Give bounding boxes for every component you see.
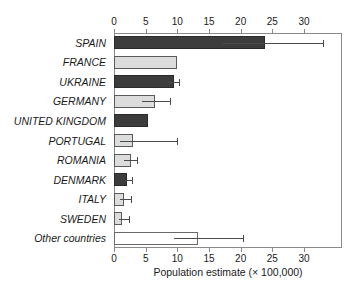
x-tick-label-top-10: 10 [162, 16, 192, 27]
category-label-united-kingdom: UNITED KINGDOM [14, 115, 106, 127]
x-tick-label-top-20: 20 [226, 16, 256, 27]
x-tick-label-bottom-15: 15 [194, 253, 224, 264]
x-tick-top-15 [209, 29, 210, 33]
error-bar-italy [120, 199, 131, 200]
x-tick-label-bottom-10: 10 [162, 253, 192, 264]
x-tick-top-5 [146, 29, 147, 33]
x-tick-top-20 [241, 29, 242, 33]
error-cap [323, 40, 324, 47]
x-tick-bottom-30 [304, 248, 305, 252]
category-label-germany: GERMANY [53, 95, 106, 107]
x-tick-label-bottom-0: 0 [99, 253, 129, 264]
x-tick-label-top-25: 25 [257, 16, 287, 27]
x-tick-label-bottom-25: 25 [257, 253, 287, 264]
error-cap [137, 157, 138, 164]
x-tick-label-top-5: 5 [131, 16, 161, 27]
x-tick-top-25 [272, 29, 273, 33]
x-tick-label-bottom-20: 20 [226, 253, 256, 264]
category-label-denmark: DENMARK [53, 174, 106, 186]
bar-chart: 005510101515202025253030 SPAINFRANCEUKRA… [0, 0, 358, 289]
error-cap [243, 235, 244, 242]
error-cap [179, 79, 180, 86]
error-cap [132, 177, 133, 184]
error-bar-other-countries [174, 238, 242, 239]
category-label-italy: ITALY [79, 193, 106, 205]
category-label-portugal: PORTUGAL [48, 135, 106, 147]
x-tick-label-top-30: 30 [289, 16, 319, 27]
x-tick-label-bottom-5: 5 [131, 253, 161, 264]
category-label-romania: ROMANIA [57, 154, 106, 166]
x-tick-bottom-5 [146, 248, 147, 252]
error-cap [170, 98, 171, 105]
x-tick-bottom-15 [209, 248, 210, 252]
bar-france [114, 56, 177, 69]
category-label-spain: SPAIN [75, 37, 106, 49]
error-cap [177, 138, 178, 145]
x-tick-bottom-25 [272, 248, 273, 252]
top-axis-line [114, 33, 342, 34]
category-label-france: FRANCE [63, 56, 106, 68]
bar-ukraine [114, 75, 174, 88]
error-bar-denmark [125, 180, 133, 181]
x-tick-bottom-20 [241, 248, 242, 252]
error-bar-ukraine [168, 82, 178, 83]
x-tick-top-30 [304, 29, 305, 33]
error-cap [131, 196, 132, 203]
bottom-axis-line [114, 247, 342, 248]
category-label-sweden: SWEDEN [60, 213, 106, 225]
category-label-ukraine: UKRAINE [59, 76, 106, 88]
x-tick-top-10 [177, 29, 178, 33]
x-tick-bottom-0 [114, 248, 115, 252]
error-bar-sweden [119, 219, 129, 220]
x-tick-label-top-15: 15 [194, 16, 224, 27]
error-bar-spain [222, 43, 323, 44]
error-cap [129, 216, 130, 223]
x-axis-title: Population estimate (× 100,000) [114, 266, 342, 278]
category-label-other-countries: Other countries [34, 232, 106, 244]
x-tick-label-bottom-30: 30 [289, 253, 319, 264]
x-tick-bottom-10 [177, 248, 178, 252]
x-tick-top-0 [114, 29, 115, 33]
error-bar-romania [124, 160, 137, 161]
error-bar-germany [142, 101, 171, 102]
error-bar-portugal [120, 141, 176, 142]
bar-united-kingdom [114, 114, 148, 127]
x-tick-label-top-0: 0 [99, 16, 129, 27]
